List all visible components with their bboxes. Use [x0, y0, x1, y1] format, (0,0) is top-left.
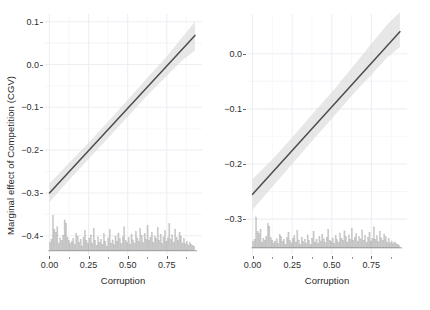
y-axis-title-text: Marginal effect of Competition (CGV) — [6, 75, 17, 234]
y-tick-mark — [40, 150, 43, 151]
x-tick-mark-minor — [352, 257, 353, 259]
plot-area-left — [44, 14, 202, 255]
y-tick-label: 0.0 — [229, 49, 242, 59]
y-tick-label: −0.1 — [224, 104, 242, 114]
y-tick-mark — [243, 54, 246, 55]
panel-left: 0.10.0−0.1−0.2−0.3−0.4 0.000.250.500.75 … — [18, 0, 218, 310]
x-tick-label: 0.50 — [323, 260, 341, 270]
x-tick-mark — [167, 256, 168, 259]
plot-area-right — [247, 14, 407, 255]
x-tick-mark — [89, 256, 90, 259]
y-tick-labels-left: 0.10.0−0.1−0.2−0.3−0.4 — [18, 14, 39, 255]
x-tick-mark — [49, 256, 50, 259]
panel-right: 0.0−0.1−0.2−0.3 0.000.250.500.75 Corrupt… — [223, 0, 428, 310]
y-tick-label: −0.2 — [21, 145, 39, 155]
x-tick-mark — [332, 256, 333, 259]
y-tick-mark — [40, 65, 43, 66]
y-tick-mark — [243, 164, 246, 165]
x-tick-mark — [371, 256, 372, 259]
marginal-effects-figure: Marginal effect of Competition (CGV) 0.1… — [0, 0, 430, 310]
x-tick-mark-minor — [69, 257, 70, 259]
y-tick-label: −0.3 — [21, 188, 39, 198]
y-tick-label: 0.1 — [26, 17, 39, 27]
x-tick-label: 0.50 — [119, 260, 137, 270]
x-tick-label: 0.75 — [363, 260, 381, 270]
y-tick-label: 0.0 — [26, 60, 39, 70]
x-tick-label: 0.25 — [283, 260, 301, 270]
y-tick-label: −0.2 — [224, 159, 242, 169]
x-tick-mark-minor — [312, 257, 313, 259]
x-tick-label: 0.75 — [158, 260, 176, 270]
x-tick-mark — [128, 256, 129, 259]
x-tick-labels-left: 0.000.250.500.75 — [44, 260, 202, 274]
x-tick-label: 0.00 — [244, 260, 262, 270]
x-tick-label: 0.00 — [41, 260, 59, 270]
y-tick-mark — [40, 107, 43, 108]
x-tick-mark-minor — [108, 257, 109, 259]
y-tick-mark — [243, 219, 246, 220]
y-tick-mark — [40, 193, 43, 194]
x-tick-labels-right: 0.000.250.500.75 — [247, 260, 407, 274]
plot-svg-right — [247, 14, 407, 255]
x-tick-mark-minor — [186, 257, 187, 259]
y-tick-labels-right: 0.0−0.1−0.2−0.3 — [223, 14, 242, 255]
plot-svg-left — [44, 14, 202, 255]
y-tick-label: −0.1 — [21, 102, 39, 112]
x-tick-mark-minor — [272, 257, 273, 259]
y-tick-mark — [243, 109, 246, 110]
y-tick-label: −0.3 — [224, 214, 242, 224]
y-tick-mark — [40, 22, 43, 23]
x-axis-title-right: Corruption — [305, 275, 349, 286]
y-tick-label: −0.4 — [21, 231, 39, 241]
x-tick-mark — [253, 256, 254, 259]
x-tick-mark — [292, 256, 293, 259]
x-tick-mark-minor — [147, 257, 148, 259]
y-tick-mark — [40, 236, 43, 237]
x-axis-title-left: Corruption — [101, 275, 145, 286]
x-tick-label: 0.25 — [80, 260, 98, 270]
x-tick-mark-minor — [391, 257, 392, 259]
